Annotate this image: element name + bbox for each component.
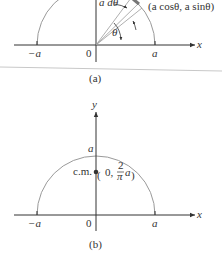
tick-label-pos-a: a — [152, 47, 158, 59]
tick-label-neg-a: −a — [28, 47, 41, 59]
dtheta-arrow — [133, 21, 136, 30]
x-axis-label: x — [196, 38, 202, 50]
figure-b: y a c.m. ( 0, 2 π a ) −a 0 a x (b) — [14, 98, 202, 251]
cm-label: c.m. — [73, 165, 92, 177]
y-axis-label: y — [91, 98, 97, 110]
arc-element-label: a dθ — [99, 0, 119, 8]
caption-a: (a) — [89, 72, 102, 85]
caption-b: (b) — [89, 238, 102, 251]
top-a-label: a — [88, 142, 94, 154]
x-axis-label: x — [196, 208, 202, 220]
point-label: (a cosθ, a sinθ) — [148, 0, 214, 13]
tick-label-origin: 0 — [86, 217, 92, 229]
cm-coord-prefix: 0, — [105, 166, 114, 178]
radius-line-2 — [96, 3, 139, 45]
cm-close-paren: ) — [131, 169, 135, 182]
figure-a: a dθ θ (a cosθ, a sinθ) −a 0 a x (a) — [14, 0, 214, 85]
tick-label-pos-a: a — [152, 217, 158, 229]
tick-label-origin: 0 — [86, 47, 92, 59]
cm-frac-denominator: π — [117, 170, 123, 182]
cm-open-paren: ( — [97, 169, 101, 182]
arc-element — [133, 0, 139, 4]
semicircle-center-of-mass-diagram: a dθ θ (a cosθ, a sinθ) −a 0 a x (a) y a… — [0, 0, 222, 255]
theta-label: θ — [112, 26, 118, 38]
separator-line — [0, 67, 222, 71]
tick-label-neg-a: −a — [28, 217, 41, 229]
